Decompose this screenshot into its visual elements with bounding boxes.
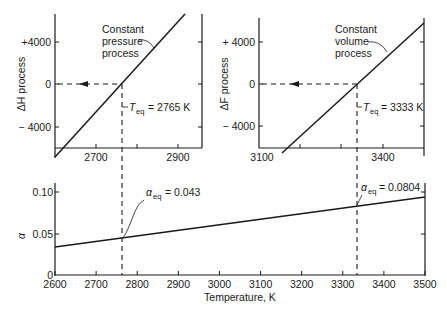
x-tick-label: 2600 — [43, 278, 67, 290]
alpha-eq-subscript: eq — [368, 187, 376, 196]
chart-canvas: +4000 0 − 4000 2700 2900 ΔH process Cons… — [0, 0, 447, 314]
arrow-left-icon — [79, 81, 88, 87]
x-tick-label: 2800 — [126, 278, 150, 290]
y-tick-label: − 4000 — [223, 120, 256, 132]
x-tick-labels: 2600270028002900300031003200330034003500 — [43, 278, 437, 290]
series-line — [55, 197, 425, 247]
chart-figure: +4000 0 − 4000 2700 2900 ΔH process Cons… — [0, 0, 447, 314]
annotation-line2: volume — [335, 35, 369, 47]
x-tick-label: 3000 — [208, 278, 232, 290]
x-tick-label: 2700 — [84, 278, 108, 290]
annotation-leader — [123, 200, 144, 238]
alpha-eq-value: = 0.043 — [165, 186, 200, 198]
alpha-eq-symbol: α — [361, 181, 368, 193]
y-tick-label: 0.05 — [33, 228, 54, 240]
x-axis-title: Temperature, K — [204, 291, 276, 303]
teq-value: = 3333 K — [381, 101, 423, 113]
alpha-eq-value: = 0.0804 — [379, 181, 420, 193]
x-tick-label: 3400 — [371, 151, 395, 163]
annotation-line2: pressure — [102, 35, 143, 47]
x-tick-label: 2900 — [167, 278, 191, 290]
axes-frame — [55, 183, 425, 276]
x-tick-label: 3400 — [372, 278, 396, 290]
x-tick-label: 3300 — [331, 278, 355, 290]
panel-delta-h: +4000 0 − 4000 2700 2900 ΔH process Cons… — [15, 14, 202, 163]
y-ticks — [55, 192, 425, 234]
annotation-line1: Constant — [102, 23, 144, 35]
y-tick-label: 0 — [249, 78, 255, 90]
x-tick-label: 3100 — [250, 151, 274, 163]
y-tick-label: +4000 — [22, 36, 52, 48]
alpha-eq-symbol: α — [146, 186, 153, 198]
y-tick-label: − 4000 — [19, 121, 52, 133]
arrow-left-icon — [290, 81, 299, 87]
x-tick-label: 2900 — [166, 151, 190, 163]
y-tick-label: + 4000 — [223, 36, 256, 48]
y-tick-label: 0.10 — [33, 186, 54, 198]
y-tick-label: 0 — [45, 78, 51, 90]
x-tick-label: 2700 — [84, 151, 108, 163]
teq-value: = 2765 K — [148, 101, 190, 113]
panel-delta-f: + 4000 0 − 4000 3100 3400 ΔF process Con… — [218, 18, 424, 163]
teq-subscript: eq — [136, 107, 144, 116]
annotation-line3: process — [102, 47, 139, 59]
annotation-leader — [357, 195, 362, 205]
x-tick-label: 3500 — [413, 278, 437, 290]
x-tick-label: 3200 — [290, 278, 314, 290]
annotation-line3: process — [335, 47, 372, 59]
alpha-eq-subscript: eq — [153, 192, 161, 201]
teq-subscript: eq — [370, 107, 378, 116]
x-tick-label: 3100 — [249, 278, 273, 290]
annotation-line1: Constant — [335, 23, 377, 35]
panel-alpha: 0.10 0.05 0 2600270028002900300031003200… — [15, 181, 437, 303]
y-axis-title: ΔH process — [15, 57, 27, 111]
y-axis-title: ΔF process — [218, 57, 230, 110]
y-axis-title: α — [15, 232, 27, 239]
